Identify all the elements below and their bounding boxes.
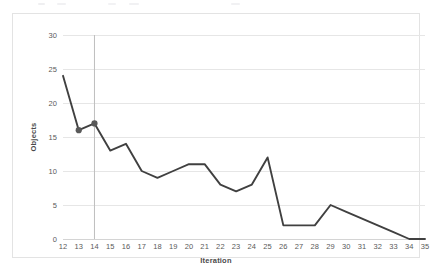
plot-area: 051015202530 [63,35,425,239]
x-axis-tick-label: 32 [374,242,383,251]
x-axis-tick-label: 24 [248,242,257,251]
x-axis-tick-label: 17 [137,242,146,251]
x-axis-tick-label: 22 [216,242,225,251]
y-axis-tick-label: 5 [53,201,57,210]
x-axis-tick-label: 15 [106,242,115,251]
y-axis-tick-label: 25 [48,65,57,74]
chart-container: Objects 051015202530 1213141516171819202… [12,13,420,258]
y-axis-title: Objects [29,123,38,152]
x-axis-tick-label: 25 [263,242,272,251]
y-axis-tick-label: 0 [53,235,57,244]
x-axis-tick-label: 23 [232,242,241,251]
x-axis-tick-label: 35 [421,242,430,251]
x-axis-tick-label: 28 [311,242,320,251]
gridline-0: 0 [63,239,425,240]
x-axis-tick-label: 30 [342,242,351,251]
x-axis-tick-label: 13 [74,242,83,251]
line-series-layer [63,35,425,239]
x-axis-tick-label: 26 [279,242,288,251]
x-axis-tick-label: 16 [122,242,131,251]
scan-artifacts [0,0,437,11]
x-axis-tick-label: 29 [326,242,335,251]
y-axis-tick-label: 20 [48,99,57,108]
y-axis-tick-label: 15 [48,133,57,142]
x-axis-tick-label: 19 [169,242,178,251]
data-point-marker [76,127,82,133]
data-line-objects [63,76,425,239]
x-axis-tick-label: 14 [90,242,99,251]
x-axis-title: Iteration [13,256,419,265]
y-axis-tick-label: 30 [48,31,57,40]
x-axis-tick-label: 12 [59,242,68,251]
x-axis-tick-label: 21 [200,242,209,251]
data-point-marker [91,120,97,126]
x-axis-tick-label: 31 [358,242,367,251]
x-axis-tick-label: 33 [389,242,398,251]
x-axis-tick-label: 27 [295,242,304,251]
x-axis-tick-label: 34 [405,242,414,251]
x-axis-tick-label: 18 [153,242,162,251]
y-axis-tick-label: 10 [48,167,57,176]
x-axis-tick-label: 20 [185,242,194,251]
x-axis-tick-labels: 1213141516171819202122232425262728293031… [63,242,425,254]
